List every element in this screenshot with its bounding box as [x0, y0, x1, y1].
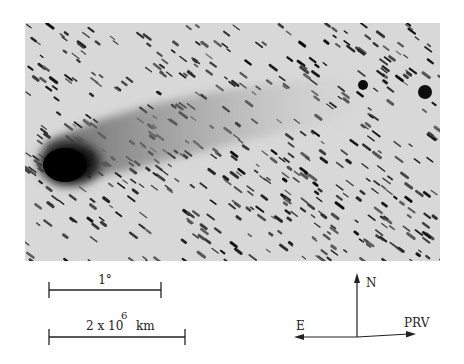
- compass-rose: N E PRV: [294, 273, 430, 340]
- linear-scale-exponent: 6: [121, 310, 127, 321]
- prv-arrowhead-icon: [406, 331, 416, 338]
- linear-scale-mantissa: 2 x 10: [86, 319, 123, 333]
- north-label: N: [366, 276, 377, 290]
- linear-scale-unit: km: [136, 319, 155, 333]
- east-arrowhead-icon: [294, 334, 304, 340]
- prv-label: PRV: [404, 316, 430, 330]
- north-arrowhead-icon: [354, 273, 360, 283]
- linear-scale-bar: 2 x 10 6 km: [49, 310, 185, 345]
- east-label: E: [296, 319, 305, 333]
- angular-scale-bar: 1°: [49, 273, 161, 298]
- angular-scale-label: 1°: [98, 273, 112, 287]
